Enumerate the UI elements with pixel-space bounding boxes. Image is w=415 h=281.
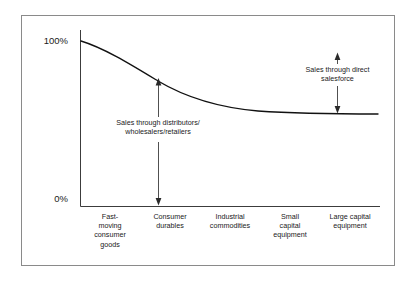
y-axis-tick-0: 0% (28, 193, 68, 204)
exhibit-figure: 100% 0% Sales through distributors/ whol… (0, 0, 415, 281)
x-axis-category-small-capital-equipment: Small capital equipment (260, 212, 320, 240)
annotation-direct-line2: salesforce (290, 75, 385, 84)
x-axis-category-consumer-durables: Consumer durables (140, 212, 200, 230)
annotation-distributors-line2: wholesalers/retailers (88, 128, 228, 137)
x-axis-category-row: Fast- moving consumer goods Consumer dur… (80, 212, 380, 260)
x-axis-category-fast-moving-consumer-goods: Fast- moving consumer goods (80, 212, 140, 249)
annotation-direct-salesforce: Sales through direct salesforce (290, 66, 385, 83)
y-axis-tick-100: 100% (28, 35, 68, 46)
x-axis-category-industrial-commodities: Industrial commodities (200, 212, 260, 230)
annotation-distributors: Sales through distributors/ wholesalers/… (88, 119, 228, 136)
x-axis-category-large-capital-equipment: Large capital equipment (320, 212, 380, 230)
distributors-arrow (156, 78, 162, 206)
